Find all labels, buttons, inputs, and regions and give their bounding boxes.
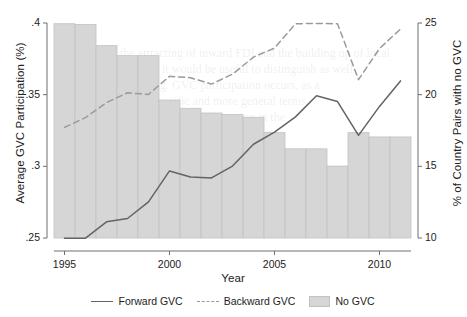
bar-2006 (285, 149, 306, 238)
line-solid-swatch (91, 301, 113, 302)
x-tick-2010: 2010 (360, 258, 400, 270)
bar-2003 (222, 114, 243, 238)
bar-2007 (306, 149, 327, 238)
bar-2010 (369, 137, 390, 238)
bar-block-swatch (309, 296, 330, 307)
bar-2000 (159, 100, 180, 238)
bar-1997 (96, 46, 117, 238)
bar-2001 (180, 108, 201, 238)
bar-2011 (390, 137, 411, 238)
y-tick-left-.3: .3 (14, 159, 40, 171)
bar-1998 (117, 56, 138, 238)
chart-legend: Forward GVCBackward GVCNo GVC (54, 290, 412, 312)
bar-1999 (138, 56, 159, 238)
legend-item-backward-gvc[interactable]: Backward GVC (197, 295, 296, 307)
bar-1995 (54, 24, 75, 238)
y-tick-left-.35: .35 (14, 88, 40, 100)
x-tick-2000: 2000 (150, 258, 190, 270)
legend-label: No GVC (335, 295, 374, 307)
y-axis-right-title: % of Country Pairs with no GVC (451, 3, 467, 243)
bar-2008 (327, 166, 348, 238)
no-gvc-bar-group (54, 24, 411, 238)
line-dashed-swatch (197, 301, 219, 302)
legend-item-forward-gvc[interactable]: Forward GVC (91, 295, 182, 307)
legend-item-no-gvc[interactable]: No GVC (309, 295, 374, 307)
bar-1996 (75, 24, 96, 238)
x-axis-title: Year (54, 272, 412, 284)
y-tick-right-10: 10 (425, 231, 451, 243)
bar-2002 (201, 113, 222, 238)
y-axis-left-title: Average GVC Participation (%) (14, 3, 30, 243)
y-tick-right-25: 25 (425, 16, 451, 28)
legend-label: Backward GVC (224, 295, 296, 307)
y-tick-right-15: 15 (425, 159, 451, 171)
y-tick-left-.25: .25 (14, 231, 40, 243)
y-tick-right-20: 20 (425, 88, 451, 100)
legend-label: Forward GVC (118, 295, 182, 307)
x-tick-1995: 1995 (45, 258, 85, 270)
bar-2009 (348, 133, 369, 238)
x-tick-2005: 2005 (255, 258, 295, 270)
y-tick-left-.4: .4 (14, 16, 40, 28)
bar-2004 (243, 117, 264, 238)
bar-2005 (264, 133, 285, 238)
